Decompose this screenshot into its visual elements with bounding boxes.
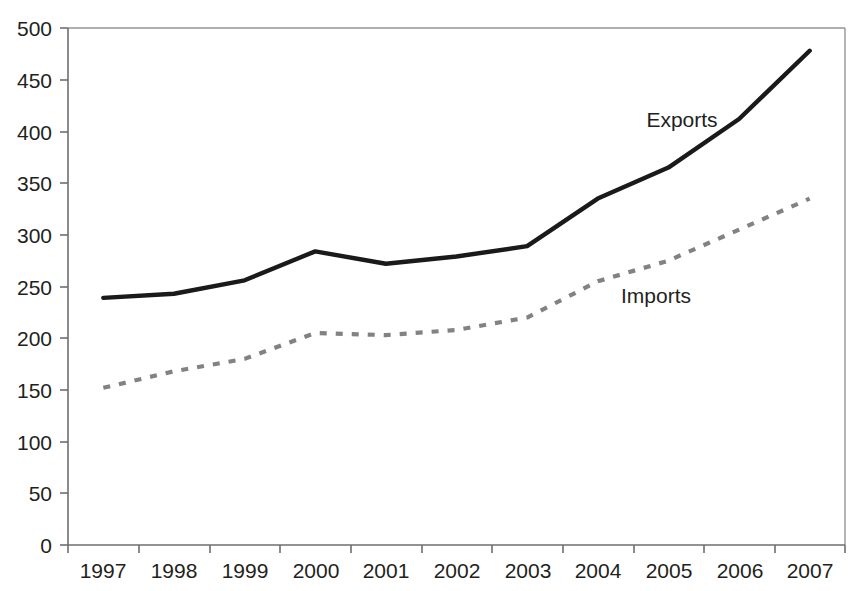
series-line-imports <box>103 199 809 388</box>
x-axis-tick-labels: 1997 1998 1999 2000 2001 2002 2003 2004 … <box>80 559 834 582</box>
x-axis-ticks <box>68 545 845 553</box>
y-tick-label: 150 <box>17 379 52 402</box>
series-label-imports: Imports <box>621 284 691 307</box>
y-tick-label: 300 <box>17 224 52 247</box>
y-tick-label: 250 <box>17 276 52 299</box>
x-tick-label: 1998 <box>151 559 198 582</box>
x-tick-label: 1997 <box>80 559 127 582</box>
series-label-exports: Exports <box>646 108 717 131</box>
x-tick-label: 1999 <box>222 559 269 582</box>
y-tick-label: 400 <box>17 121 52 144</box>
y-axis-ticks <box>60 28 68 545</box>
y-axis-tick-labels: 500 450 400 350 300 250 200 150 100 50 0 <box>17 17 52 557</box>
x-tick-label: 2002 <box>434 559 481 582</box>
y-tick-label: 100 <box>17 431 52 454</box>
y-tick-label: 450 <box>17 69 52 92</box>
x-tick-label: 2005 <box>646 559 693 582</box>
x-tick-label: 2003 <box>505 559 552 582</box>
chart-canvas: 500 450 400 350 300 250 200 150 100 50 0 <box>0 0 861 591</box>
line-chart: 500 450 400 350 300 250 200 150 100 50 0 <box>0 0 861 591</box>
x-tick-label: 2007 <box>787 559 834 582</box>
y-tick-label: 350 <box>17 172 52 195</box>
y-tick-label: 500 <box>17 17 52 40</box>
y-tick-label: 50 <box>29 482 52 505</box>
x-tick-label: 2001 <box>363 559 410 582</box>
x-tick-label: 2006 <box>717 559 764 582</box>
series-line-exports <box>103 51 809 298</box>
x-tick-label: 2004 <box>575 559 622 582</box>
y-tick-label: 0 <box>40 534 52 557</box>
y-tick-label: 200 <box>17 327 52 350</box>
x-tick-label: 2000 <box>293 559 340 582</box>
